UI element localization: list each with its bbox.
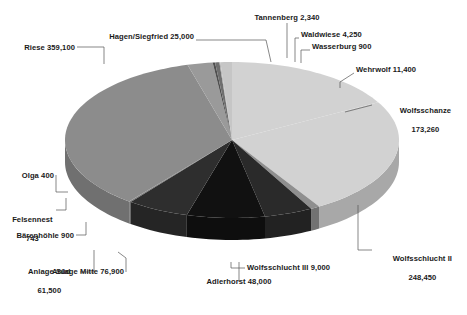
label-wolfsschanze: Wolfsschanze 173,260	[377, 97, 465, 144]
label-anlage-sued: Anlage Süd 61,500	[12, 258, 78, 305]
pie-depth-anlage-mitte	[187, 215, 265, 240]
label-waldwiese: Waldwiese 4,250	[301, 30, 401, 39]
pie-slices	[65, 62, 399, 218]
label-tannenberg: Tannenberg 2,340	[232, 13, 342, 22]
label-wolfsschlucht-3: Wolfsschlucht III 9,000	[247, 263, 367, 272]
pie-chart-figure: Riese 359,100 Hagen/Siegfried 25,000 Tan…	[0, 0, 467, 315]
pie-depth-felsennest	[129, 202, 130, 224]
label-olga: Olga 400	[0, 171, 54, 180]
label-wolfsschlucht-2: Wolfsschlucht II 248,450	[372, 245, 464, 292]
label-anlage-sued-name: Anlage Süd	[28, 267, 71, 276]
label-felsennest-name: Felsennest	[12, 215, 52, 224]
label-anlage-sued-value: 61,500	[38, 286, 62, 295]
label-wolfsschlucht-2-value: 248,450	[408, 273, 436, 282]
label-felsennest-value: 743	[26, 234, 39, 243]
label-riese: Riese 359,100	[0, 43, 75, 52]
label-wolfsschanze-name: Wolfsschanze	[400, 106, 451, 115]
label-felsennest: Felsennest 743	[2, 206, 54, 253]
label-wolfsschlucht-2-name: Wolfsschlucht II	[393, 254, 452, 263]
label-hagen-siegfried: Hagen/Siegfried 25,000	[78, 32, 194, 41]
label-wasserburg: Wasserburg 900	[312, 42, 412, 51]
label-wolfsschanze-value: 173,260	[411, 125, 439, 134]
label-wehrwolf: Wehrwolf 11,400	[356, 65, 464, 74]
pie-depth-b-renh-hle	[130, 202, 131, 224]
pie-depth-wolfsschlucht-iii	[311, 207, 319, 231]
label-adlerhorst: Adlerhorst 48,000	[179, 277, 299, 286]
